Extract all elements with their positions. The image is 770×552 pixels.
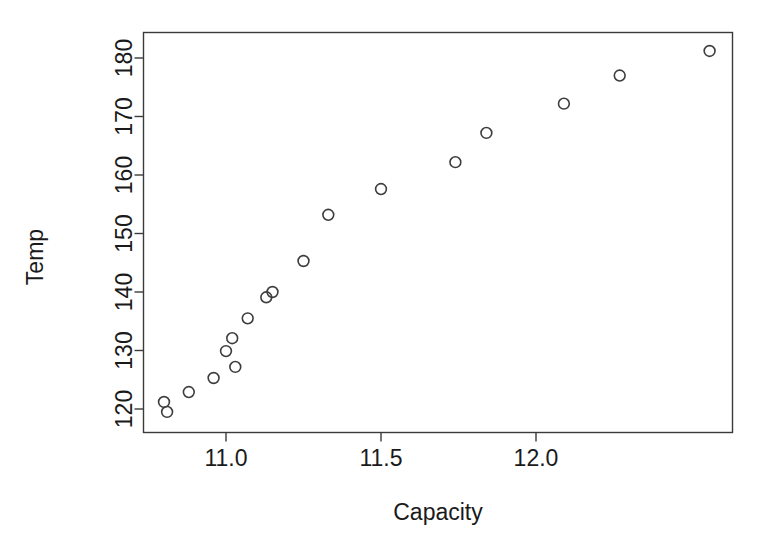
y-tick-label: 120 [111,390,137,428]
data-point [559,98,570,109]
y-tick-label: 150 [111,214,137,252]
x-tick-label: 11.0 [204,445,247,471]
y-axis-title: Temp [22,229,48,285]
data-point [242,313,253,324]
data-point [183,387,194,398]
y-tick-label: 160 [111,156,137,194]
data-point [376,184,387,195]
data-point [704,46,715,57]
x-axis-ticks: 11.011.512.0 [204,433,558,471]
data-point [450,157,461,168]
data-point [208,373,219,384]
x-tick-label: 11.5 [359,445,402,471]
y-tick-label: 140 [111,273,137,311]
x-axis-title: Capacity [393,499,483,525]
x-tick-label: 12.0 [514,445,559,471]
data-point [159,397,170,408]
y-axis-ticks: 120130140150160170180 [111,39,144,428]
data-point-group [159,46,715,418]
y-tick-label: 130 [111,331,137,369]
data-point [481,127,492,138]
plot-canvas: 120130140150160170180 11.011.512.0 Temp … [0,0,770,552]
plot-frame [144,33,733,433]
data-point [221,346,232,357]
scatter-plot-figure: 120130140150160170180 11.011.512.0 Temp … [0,0,770,552]
data-point [227,333,238,344]
data-point [162,407,173,418]
y-tick-label: 170 [111,97,137,135]
data-point [230,361,241,372]
y-tick-label: 180 [111,39,137,77]
data-point [323,209,334,220]
data-point [298,256,309,267]
data-point [614,70,625,81]
